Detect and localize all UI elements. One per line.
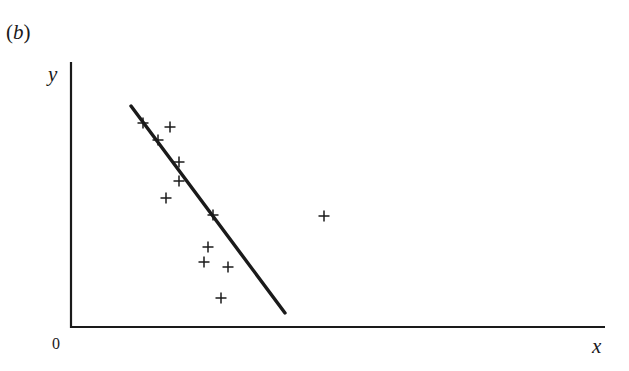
plus-marker-icon xyxy=(161,193,172,204)
scatter-plot xyxy=(0,0,629,371)
regression-line xyxy=(131,106,285,313)
data-points xyxy=(138,118,330,304)
plus-marker-icon xyxy=(199,257,210,268)
plus-marker-icon xyxy=(165,122,176,133)
axes xyxy=(70,62,605,328)
plus-marker-icon xyxy=(203,242,214,253)
fit-line xyxy=(131,106,285,313)
plus-marker-icon xyxy=(223,262,234,273)
plus-marker-icon xyxy=(319,211,330,222)
plus-marker-icon xyxy=(216,293,227,304)
